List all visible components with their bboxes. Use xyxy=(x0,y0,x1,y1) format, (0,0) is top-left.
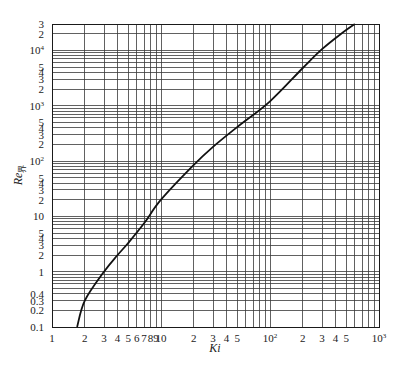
chart: 1234567891023451022345103 0.10.20.30.412… xyxy=(0,0,403,367)
x-axis-label: Ki xyxy=(208,341,220,355)
y-tick-label: 103 xyxy=(30,100,45,112)
x-tick-label: 5 xyxy=(125,332,131,344)
x-tick-label: 5 xyxy=(343,332,349,344)
re-critical-curve xyxy=(77,24,355,327)
y-tick-label: 0.4 xyxy=(30,288,44,300)
x-tick-label: 3 xyxy=(101,332,107,344)
x-tick-label: 2 xyxy=(82,332,88,344)
vertical-gridlines xyxy=(52,24,374,327)
y-tick-label: 5 xyxy=(39,61,45,73)
x-tick-label: 4 xyxy=(224,332,230,344)
y-tick-label: 1 xyxy=(39,266,45,278)
y-axis-label: Re界 xyxy=(11,165,27,187)
y-tick-label: 5 xyxy=(39,227,45,239)
y-tick-labels: 0.10.20.30.41234510234510223451032345104… xyxy=(30,18,45,333)
x-tick-label: 3 xyxy=(319,332,325,344)
y-tick-label: 3 xyxy=(39,18,45,30)
x-tick-label: 4 xyxy=(333,332,339,344)
y-tick-label: 5 xyxy=(39,172,45,184)
x-tick-label: 6 xyxy=(134,332,140,344)
x-tick-label: 2 xyxy=(300,332,306,344)
y-tick-label: 104 xyxy=(30,44,45,56)
x-tick-label: 7 xyxy=(141,332,147,344)
horizontal-gridlines xyxy=(52,24,379,327)
plot-frame xyxy=(52,24,379,327)
x-tick-label: 1 xyxy=(49,332,55,344)
y-tick-label: 0.1 xyxy=(30,321,44,333)
y-tick-label: 102 xyxy=(30,155,45,167)
x-tick-label: 102 xyxy=(263,332,278,344)
y-tick-label: 10 xyxy=(33,210,45,222)
x-tick-label: 4 xyxy=(115,332,121,344)
x-tick-label: 103 xyxy=(372,332,387,344)
x-tick-label: 10 xyxy=(156,332,168,344)
x-tick-label: 5 xyxy=(234,332,240,344)
y-tick-label: 5 xyxy=(39,116,45,128)
x-tick-label: 2 xyxy=(191,332,197,344)
